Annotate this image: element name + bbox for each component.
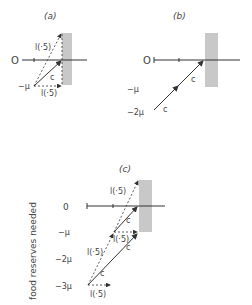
label-c-a: c bbox=[50, 73, 54, 82]
label-c1-c: c bbox=[126, 216, 130, 225]
panel-a: (a) O −μ l(·5) c l(·5) bbox=[11, 11, 87, 98]
neg-3mu-c: −3μ bbox=[55, 282, 72, 291]
neg-2mu-b: −2μ bbox=[127, 108, 144, 117]
panel-b-title: (b) bbox=[173, 11, 186, 21]
neg-2mu-c: −2μ bbox=[55, 255, 72, 264]
label-top-c: l(·5) bbox=[110, 187, 126, 196]
panel-a-title: (a) bbox=[44, 11, 57, 21]
diagram: (a) O −μ l(·5) c l(·5) (b) O −μ −2μ c c … bbox=[0, 0, 252, 305]
label-upper-a: l(·5) bbox=[35, 43, 51, 52]
barrier-bar-a bbox=[62, 33, 72, 85]
y-axis-title-c: food reserves needed bbox=[28, 202, 38, 300]
c-arrow-a bbox=[34, 61, 61, 86]
panel-c-title: (c) bbox=[119, 164, 131, 174]
axis-zero-b: O bbox=[143, 55, 151, 66]
neg-mu-b: −μ bbox=[127, 85, 139, 94]
label-bottom-c: l(·5) bbox=[90, 290, 106, 299]
neg-mu-c: −μ bbox=[58, 228, 70, 237]
panel-c: (c) food reserves needed 0 −μ −2μ −3μ l(… bbox=[28, 164, 165, 300]
label-c2-c: c bbox=[126, 243, 130, 252]
label-left-c: l(·5) bbox=[87, 248, 103, 257]
label-c-upper-b: c bbox=[191, 75, 195, 84]
axis-zero-c: 0 bbox=[63, 202, 69, 212]
label-c-lower-b: c bbox=[163, 105, 167, 114]
neg-mu-a: −μ bbox=[18, 82, 30, 91]
label-lower-a: l(·5) bbox=[41, 89, 57, 98]
axis-zero-a: O bbox=[11, 55, 19, 66]
label-c3-c: c bbox=[100, 269, 104, 278]
panel-b: (b) O −μ −2μ c c bbox=[127, 11, 240, 117]
